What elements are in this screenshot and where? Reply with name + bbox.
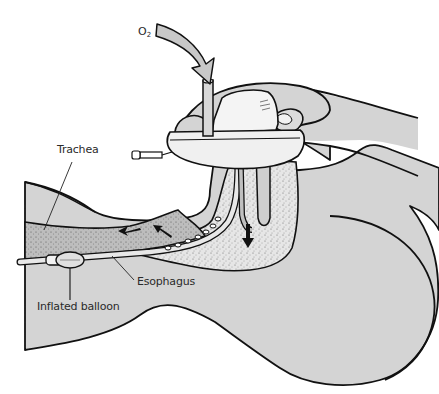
oxygen-port bbox=[203, 80, 213, 136]
inflated-balloon bbox=[46, 252, 84, 268]
esophagus-label: Esophagus bbox=[137, 276, 195, 287]
mask-cushion bbox=[167, 130, 304, 169]
trachea-label: Trachea bbox=[57, 144, 99, 155]
oxygen-label: O2 bbox=[138, 26, 151, 39]
oxygen-label-main: O bbox=[138, 25, 147, 38]
airway-diagram bbox=[0, 0, 439, 394]
oxygen-label-subscript: 2 bbox=[147, 31, 151, 39]
inflation-port bbox=[132, 151, 172, 159]
oxygen-arrow-icon bbox=[156, 24, 214, 84]
inflated-balloon-label: Inflated balloon bbox=[37, 301, 120, 312]
